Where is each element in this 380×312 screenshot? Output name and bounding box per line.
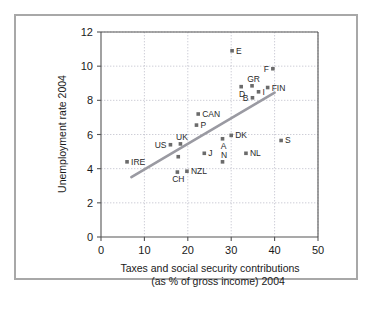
figure-root: 024681012 01020304050 IREUSUKCHNZLPCANJA… [0, 0, 380, 312]
chart-frame [14, 14, 358, 280]
